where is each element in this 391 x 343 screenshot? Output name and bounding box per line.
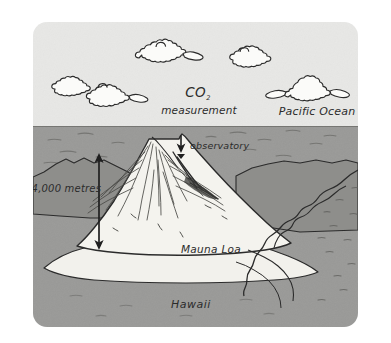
observatory-label: observatory	[190, 140, 249, 151]
illustration-root: CO2 measurement Pacific Ocean observator…	[0, 0, 391, 343]
pacific-ocean-label: Pacific Ocean	[279, 105, 356, 118]
elevation-label: >4,000 metres	[23, 183, 101, 194]
framed-scene: CO2 measurement Pacific Ocean observator…	[23, 22, 359, 327]
mountain-name-label: Mauna Loa	[181, 243, 241, 255]
co2-label-subscript: 2	[206, 94, 211, 102]
co2-label-main: CO	[185, 84, 206, 100]
island-name-label: Hawaii	[171, 298, 211, 311]
mauna-loa-illustration: CO2 measurement Pacific Ocean observator…	[0, 0, 391, 343]
measurement-label: measurement	[161, 104, 237, 116]
